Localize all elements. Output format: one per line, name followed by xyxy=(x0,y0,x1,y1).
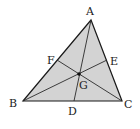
label-f: F xyxy=(47,54,55,67)
triangle-diagram: A B C D E F G xyxy=(0,0,140,129)
label-b: B xyxy=(9,97,17,110)
triangle-abc xyxy=(23,20,122,101)
centroid-point-g xyxy=(77,72,81,76)
label-c: C xyxy=(124,98,132,111)
label-d: D xyxy=(68,105,77,118)
label-e: E xyxy=(110,55,118,68)
label-a: A xyxy=(85,5,95,18)
label-g: G xyxy=(79,79,88,92)
